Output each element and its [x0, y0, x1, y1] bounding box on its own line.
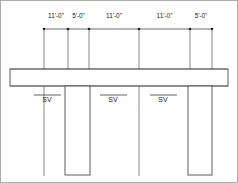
dimension-string: 11'-0" 5'-0" 11'-0" 11'-0" 5'-0" [43, 12, 214, 30]
hatched-column-right [188, 86, 212, 175]
sv-annotation-1: SV [34, 95, 61, 103]
hatched-column-left [65, 86, 90, 175]
structural-elevation-drawing: 11'-0" 5'-0" 11'-0" 11'-0" 5'-0" [0, 0, 238, 183]
sv-label: SV [42, 96, 52, 103]
sv-label: SV [108, 96, 118, 103]
reference-verticals [44, 86, 139, 176]
slab-beam [10, 69, 228, 86]
column-outline [188, 86, 212, 175]
dimension-label-1: 11'-0" [48, 12, 64, 19]
column-outline [65, 86, 90, 175]
extension-lines [44, 29, 212, 70]
sv-label: SV [158, 96, 168, 103]
columns [65, 86, 212, 175]
dimension-labels: 11'-0" 5'-0" 11'-0" 11'-0" 5'-0" [48, 12, 207, 19]
dimension-label-2: 5'-0" [72, 12, 85, 19]
slab-outline [10, 69, 228, 86]
sv-annotation-2: SV [100, 95, 127, 103]
dimension-label-4: 11'-0" [157, 12, 173, 19]
sv-annotation-3: SV [150, 95, 177, 103]
drawing-canvas: 11'-0" 5'-0" 11'-0" 11'-0" 5'-0" [0, 0, 238, 183]
sv-annotations: SV SV SV [34, 95, 177, 103]
dimension-label-3: 11'-0" [106, 12, 122, 19]
dimension-label-5: 5'-0" [195, 12, 208, 19]
